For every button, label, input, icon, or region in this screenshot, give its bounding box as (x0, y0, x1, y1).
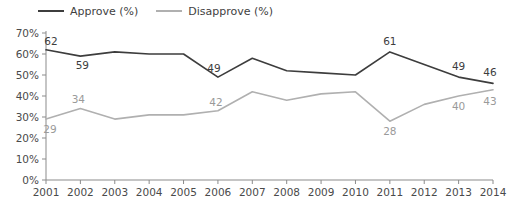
x-tick-label: 2005 (170, 186, 197, 198)
y-tick-label: 40% (16, 90, 39, 102)
point-label-disapprove-40: 40 (452, 100, 465, 112)
point-label-approve-49: 49 (452, 60, 465, 72)
point-label-disapprove-29: 29 (43, 123, 56, 135)
plot-area: 0%10%20%30%40%50%60%70% 2001200220032004… (0, 0, 507, 206)
point-label-approve-46: 46 (483, 66, 497, 78)
data-series-group (46, 50, 493, 121)
x-tick-label: 2003 (101, 186, 128, 198)
x-tick-label: 2009 (308, 186, 335, 198)
x-axis: 2001200220032004200520062007200820092010… (33, 180, 507, 198)
x-tick-label: 2002 (67, 186, 94, 198)
x-tick-label: 2011 (376, 186, 403, 198)
point-label-approve-62: 62 (44, 35, 57, 47)
y-tick-label: 30% (16, 111, 39, 123)
line-chart: Approve (%) Disapprove (%) 0%10%20%30%40… (0, 0, 507, 206)
point-label-approve-49: 49 (207, 62, 220, 74)
point-label-approve-59: 59 (76, 59, 89, 71)
x-tick-label: 2014 (480, 186, 507, 198)
x-tick-label: 2001 (33, 186, 60, 198)
point-label-disapprove-42: 42 (209, 96, 222, 108)
x-tick-label: 2008 (273, 186, 300, 198)
series-line-disapprove (46, 90, 493, 122)
x-tick-label: 2007 (239, 186, 266, 198)
y-tick-label: 0% (22, 174, 39, 186)
y-tick-label: 20% (16, 132, 39, 144)
point-label-disapprove-28: 28 (383, 125, 396, 137)
x-tick-label: 2004 (136, 186, 163, 198)
x-tick-label: 2012 (411, 186, 438, 198)
x-tick-label: 2010 (342, 186, 369, 198)
y-axis: 0%10%20%30%40%50%60%70% (16, 27, 46, 186)
y-tick-label: 50% (16, 69, 39, 81)
point-label-disapprove-43: 43 (483, 95, 496, 107)
y-tick-label: 10% (16, 153, 39, 165)
x-tick-label: 2013 (445, 186, 472, 198)
point-label-approve-61: 61 (383, 35, 396, 47)
series-line-approve (46, 50, 493, 84)
x-tick-label: 2006 (205, 186, 232, 198)
y-tick-label: 60% (16, 48, 39, 60)
point-label-disapprove-34: 34 (72, 93, 86, 105)
data-point-labels: 625949614946342942284043 (43, 35, 497, 137)
y-tick-label: 70% (16, 27, 39, 39)
